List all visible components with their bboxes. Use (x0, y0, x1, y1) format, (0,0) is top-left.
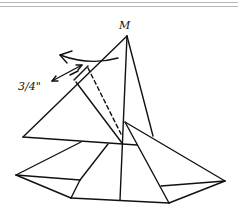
right-flap-inner (125, 122, 169, 203)
edge-apex-right (127, 36, 153, 136)
fold-dashed-line (88, 68, 121, 134)
fold-flap-edge (76, 82, 122, 143)
right-flap-top (125, 122, 225, 181)
edge-apex-center (120, 36, 127, 200)
base-left-fold-lower (71, 180, 80, 198)
pyramid-fold-diagram: M 3/4" (0, 0, 238, 218)
apex-label: M (118, 19, 131, 32)
base-left-fold (80, 144, 108, 180)
fold-curved-arrow (60, 55, 118, 61)
measurement-arrow (52, 65, 82, 81)
base-left-upper (16, 142, 81, 175)
measurement-label: 3/4" (18, 80, 41, 93)
measurement-tick (70, 71, 78, 75)
